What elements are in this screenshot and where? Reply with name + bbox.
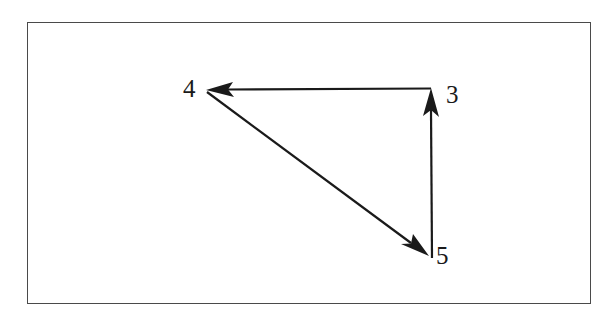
vertex-label-3: 3 (446, 82, 459, 107)
vector-triangle-diagram (0, 0, 611, 314)
arrow-to-4 (206, 82, 431, 97)
arrow-to-3 (423, 88, 439, 258)
arrow-to-5 (207, 92, 429, 256)
arrow-to-5-shaft (207, 92, 411, 243)
arrow-to-5-head (401, 234, 429, 256)
vertex-label-4: 4 (183, 76, 196, 101)
figure-root: 4 3 5 (0, 0, 611, 314)
arrow-to-4-shaft (228, 89, 431, 90)
arrow-to-3-shaft (431, 110, 432, 258)
vertex-label-5: 5 (436, 243, 449, 268)
